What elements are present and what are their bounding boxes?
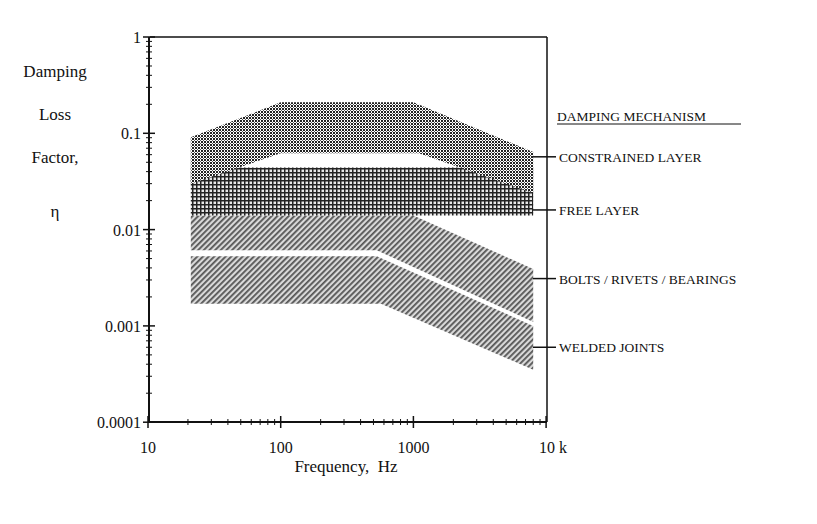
- damping-chart: 10.10.010.0010.000110100100010 k Frequen…: [0, 0, 817, 524]
- y-tick-label: 0.1: [121, 125, 141, 142]
- legend-item-label: WELDED JOINTS: [559, 340, 664, 355]
- y-tick-label: 1: [133, 29, 141, 46]
- y-tick-label: 0.0001: [97, 414, 141, 431]
- legend: CONSTRAINED LAYERFREE LAYERBOLTS / RIVET…: [533, 150, 736, 355]
- x-tick-label: 10 k: [539, 439, 567, 456]
- x-axis-title: Frequency, Hz: [294, 457, 398, 476]
- legend-item-label: BOLTS / RIVETS / BEARINGS: [559, 272, 736, 287]
- x-tick-label: 1000: [397, 439, 429, 456]
- y-tick-label: 0.001: [105, 318, 141, 335]
- legend-title: DAMPING MECHANISM: [557, 109, 706, 124]
- x-tick-label: 100: [269, 439, 293, 456]
- y-tick-label: 0.01: [113, 222, 141, 239]
- legend-item-label: FREE LAYER: [559, 203, 639, 218]
- x-tick-label: 10: [140, 439, 156, 456]
- legend-item-label: CONSTRAINED LAYER: [559, 150, 701, 165]
- band-group: [191, 102, 533, 370]
